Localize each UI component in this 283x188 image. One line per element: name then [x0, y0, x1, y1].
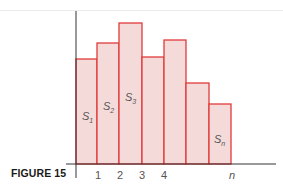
tick-3: 3 [139, 169, 145, 181]
bar-4 [142, 57, 164, 164]
riemann-sum-figure: S1 S2 S3 Sn 1 2 3 4 n [0, 0, 283, 188]
figure-caption: FIGURE 15 [11, 167, 66, 179]
bar-6 [186, 83, 209, 164]
bar-5 [164, 40, 186, 164]
tick-1: 1 [95, 169, 101, 181]
tick-2: 2 [117, 169, 123, 181]
tick-4: 4 [161, 169, 167, 181]
tick-n: n [229, 169, 235, 181]
bars [76, 23, 231, 164]
